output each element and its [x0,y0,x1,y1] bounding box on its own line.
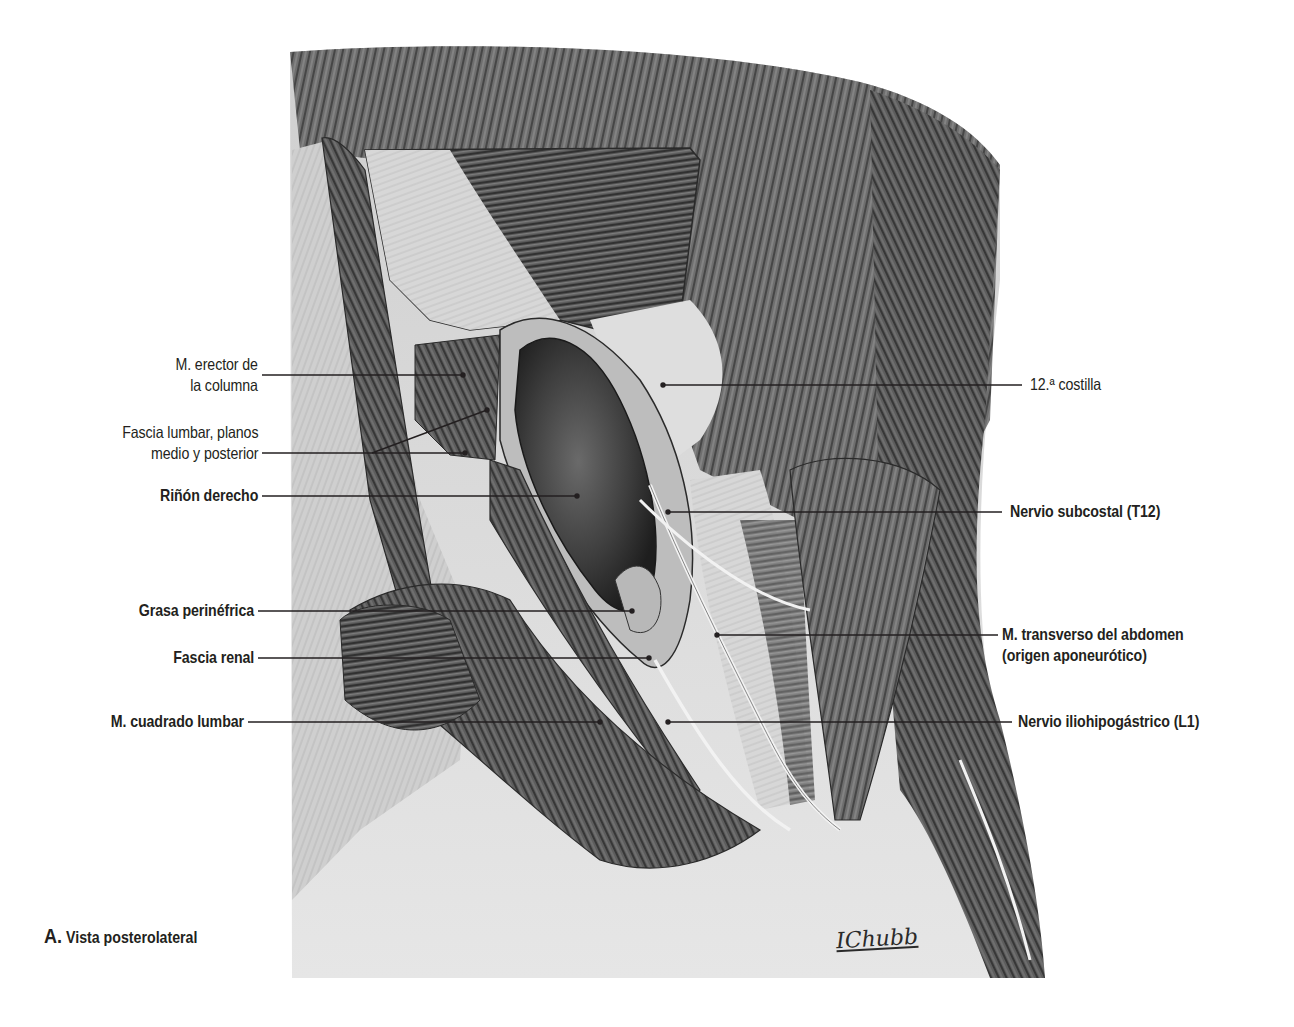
label-line: Riñón derecho [160,485,258,506]
label-line: M. cuadrado lumbar [111,711,244,732]
label-nervio-iliohipogastrico: Nervio iliohipogástrico (L1) [1018,711,1199,732]
label-line: M. erector de [176,354,258,375]
label-nervio-subcostal: Nervio subcostal (T12) [1010,501,1160,522]
label-rinon-derecho: Riñón derecho [160,485,258,506]
label-cuadrado-lumbar: M. cuadrado lumbar [111,711,244,732]
label-line: 12.ª costilla [1030,374,1101,395]
label-transverso-abdomen: M. transverso del abdomen (origen aponeu… [1002,624,1184,666]
caption-letter: A. [44,924,62,947]
label-grasa-perinefrica: Grasa perinéfrica [139,600,254,621]
label-line: Fascia lumbar, planos [122,422,258,443]
figure-caption: A. Vista posterolateral [44,924,197,948]
label-12-costilla: 12.ª costilla [1030,374,1101,395]
artist-signature: IChubb [835,924,918,953]
label-erector-de-la-columna: M. erector de la columna [176,354,258,396]
caption-text: Vista posterolateral [66,928,197,946]
label-line: medio y posterior [122,443,258,464]
label-line: la columna [176,375,258,396]
label-line: M. transverso del abdomen [1002,624,1184,645]
label-line: Nervio subcostal (T12) [1010,501,1160,522]
label-fascia-renal: Fascia renal [173,647,254,668]
label-line: (origen aponeurótico) [1002,645,1184,666]
label-line: Nervio iliohipogástrico (L1) [1018,711,1199,732]
label-line: Grasa perinéfrica [139,600,254,621]
label-line: Fascia renal [173,647,254,668]
label-fascia-lumbar: Fascia lumbar, planos medio y posterior [122,422,258,464]
